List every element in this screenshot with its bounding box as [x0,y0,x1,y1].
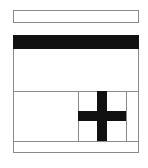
lower-right-cell [127,92,138,141]
panel-header-bar [13,35,139,49]
lower-left-cell [14,92,78,141]
content-area [14,49,138,91]
plus-icon-bar [78,111,126,121]
footer-row [14,142,138,152]
top-input-box[interactable] [13,10,139,23]
lower-middle-cell[interactable] [78,91,126,141]
